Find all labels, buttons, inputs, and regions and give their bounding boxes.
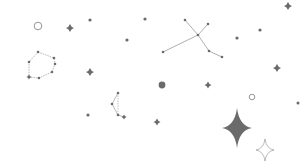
constellation-star-dot [207, 23, 210, 26]
constellation-cross-line [163, 35, 198, 52]
small-star-icon [284, 2, 292, 10]
star-dot [88, 18, 91, 21]
constellation-star-dot [54, 63, 57, 66]
constellation-star-icon [27, 75, 32, 80]
big-sparkle-star-icon [222, 108, 252, 148]
constellation-cross-line [198, 35, 209, 51]
constellation-star-dot [53, 57, 56, 60]
constellation-star-dot [111, 103, 114, 106]
star-dot [125, 38, 128, 41]
constellation-star-dot [117, 114, 120, 117]
constellation-star-dot [208, 50, 211, 53]
star-dot [297, 102, 300, 105]
small-star-icon [273, 64, 281, 72]
outline-circles [34, 22, 255, 100]
starry-sky-illustration [0, 0, 301, 166]
star-dot [235, 36, 238, 39]
star-dot [86, 113, 89, 116]
star-dot [258, 28, 261, 31]
constellation-lines [27, 19, 224, 120]
constellation-star-dot [117, 92, 120, 95]
outline-circle-icon [34, 22, 42, 30]
constellation-polygon-line [29, 52, 55, 78]
big-star-shape [222, 108, 252, 148]
constellation-star-dot [184, 19, 187, 22]
outline-circle-icon [249, 94, 255, 100]
constellation-star-dot [51, 71, 54, 74]
constellation-star-dot [197, 34, 200, 37]
outline-star-shape [256, 139, 274, 161]
constellation-star-dot [37, 51, 40, 54]
constellation-star-dot [162, 51, 165, 54]
small-star-icon [86, 68, 94, 76]
star-dots [86, 17, 299, 116]
constellation-star-dot [38, 77, 41, 80]
star-dot [159, 82, 166, 89]
constellation-cross-line [209, 51, 222, 57]
small-star-icon [154, 119, 161, 126]
outline-sparkle-star-icon [256, 139, 274, 161]
small-star-icon [66, 24, 74, 32]
constellation-cross-line [198, 24, 208, 35]
small-star-icon [205, 82, 212, 89]
small-sparkle-stars [66, 2, 292, 126]
constellation-star-dot [28, 61, 31, 64]
constellation-cross-line [185, 20, 198, 35]
star-dot [143, 17, 146, 20]
constellation-star-dot [221, 56, 224, 59]
constellation-star-icon [122, 115, 127, 120]
